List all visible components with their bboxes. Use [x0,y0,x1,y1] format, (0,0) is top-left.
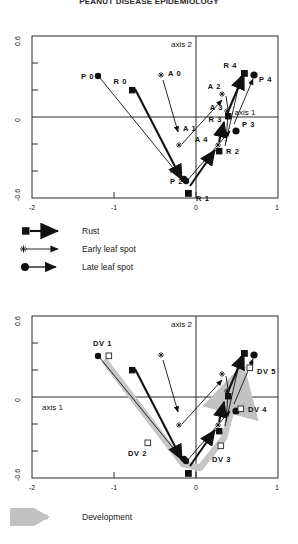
x-tick-label: 0 [194,204,198,211]
point-label: R 2 [226,147,239,156]
x-tick-label: 0 [194,484,198,491]
data-point [129,367,135,373]
x-tick-label: -1 [111,484,117,491]
point-label: DV 1 [93,339,112,348]
point-label: R 3 [209,115,222,124]
data-point [95,73,101,79]
legend-symbol-development [0,508,82,526]
legend-bottom: Development [0,508,298,538]
data-point [95,353,101,359]
point-label: A 4 [195,135,208,144]
point-label: A 0 [168,69,181,78]
point-label: DV 4 [248,405,267,414]
data-point [158,352,164,358]
data-point [219,371,225,377]
y-tick-label: 0 [14,118,21,122]
scatter-plot-bottom: 0.6 0 -0.6 -2 -1 0 1 axis 2 axis 1 [0,288,298,503]
data-point [129,87,135,93]
data-point [247,365,253,371]
point-label: DV 5 [257,367,276,376]
x-tick-label: -1 [111,204,117,211]
data-point [241,350,248,357]
point-label: A 1 [183,124,196,133]
points-rust-top [129,70,248,197]
data-point [106,353,112,359]
point-label: P 3 [242,120,255,129]
y-tick-label: 0.6 [14,316,21,326]
y-tick-label: -0.6 [14,469,21,481]
data-point [185,470,192,477]
data-point [225,393,231,399]
data-point [158,72,164,78]
data-point [218,443,224,449]
filled-square-marker [22,227,30,235]
data-point [176,142,182,148]
point-label: R 4 [224,61,238,70]
figure-title: PEANUT DISEASE EPIDEMIOLOGY [0,0,298,5]
legend-item-early-leaf-spot: Early leaf spot [0,240,298,258]
y-tick-label: 0.6 [14,36,21,46]
point-label: P 1 [170,166,183,175]
data-point [238,406,244,412]
axis1-label-bottom: axis 1 [42,403,63,412]
point-label: P 4 [259,75,272,84]
data-point [241,70,248,77]
trajectory-rust-bottom [135,354,244,466]
legend-label-rust: Rust [82,226,99,236]
data-point [219,91,225,97]
point-label: A 3 [210,103,223,112]
data-point [183,458,189,464]
point-label: P 2 [170,177,183,186]
point-label: R 0 [114,77,127,86]
data-point [216,148,222,154]
y-tick-label: -0.6 [14,189,21,201]
data-point [185,190,192,197]
legend-label-early-leaf-spot: Early leaf spot [82,244,136,254]
x-tick-label: 1 [275,204,279,211]
point-label: R 1 [196,194,209,203]
data-point [176,422,182,428]
legend-item-development: Development [0,508,298,526]
data-point [225,113,231,119]
y-tick-label: 0 [14,398,21,402]
legend-top: Rust Early leaf spot [0,222,298,278]
data-point [250,351,257,358]
x-tick-label: -2 [29,484,35,491]
points-early-leaf-spot-bottom [158,352,230,428]
open-square-marker [21,514,26,519]
legend-label-development: Development [82,512,132,522]
point-label: DV 3 [212,455,231,464]
legend-item-rust: Rust [0,222,298,240]
legend-symbol-rust [0,222,82,240]
data-point [232,127,239,134]
legend-symbol-late-leaf-spot [0,258,82,276]
legend-label-late-leaf-spot: Late leaf spot [82,262,133,272]
point-label: P 0 [81,72,94,81]
x-tick-label: -2 [29,204,35,211]
data-point [216,428,222,434]
point-label: DV 2 [128,449,147,458]
point-label: A 2 [208,82,221,91]
legend-symbol-early-leaf-spot [0,240,82,258]
data-point [183,178,189,184]
scatter-plot-top: 0.6 0 -0.6 -2 -1 0 1 axis 2 axis 1 [0,14,298,222]
filled-circle-marker [21,263,29,271]
axis2-label-top: axis 2 [171,40,192,49]
x-tick-label: 1 [275,484,279,491]
legend-item-late-leaf-spot: Late leaf spot [0,258,298,276]
data-point [145,440,151,446]
star-marker [20,246,27,253]
data-point [250,71,257,78]
axis2-label-bottom: axis 2 [171,320,192,329]
figure-page: PEANUT DISEASE EPIDEMIOLOGY 0.6 [0,0,298,544]
